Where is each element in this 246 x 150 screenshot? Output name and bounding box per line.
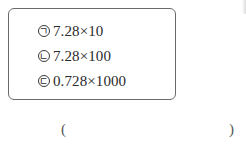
choice-expression: 7.28×100	[53, 48, 111, 64]
choice-expression: 7.28×10	[53, 23, 103, 39]
choice-item-1: ㄱ7.28×10	[38, 23, 103, 39]
close-parenthesis: )	[229, 121, 234, 138]
open-parenthesis: (	[61, 121, 66, 138]
choice-item-2: ㄴ7.28×100	[38, 48, 111, 64]
choice-item-3: ㄷ0.728×1000	[38, 73, 126, 89]
choice-expression: 0.728×1000	[53, 73, 126, 89]
page-edge-shadow	[242, 0, 246, 14]
choice-box: ㄱ7.28×10 ㄴ7.28×100 ㄷ0.728×1000	[8, 8, 176, 100]
circled-nieun-marker: ㄴ	[38, 50, 50, 62]
answer-row: ( )	[0, 121, 246, 141]
circled-giyeok-marker: ㄱ	[38, 25, 50, 37]
circled-digeut-marker: ㄷ	[38, 75, 50, 87]
answer-blank[interactable]	[72, 121, 224, 139]
